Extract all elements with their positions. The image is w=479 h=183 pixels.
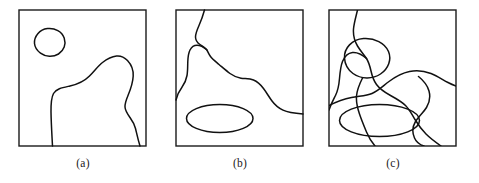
caption-panel-b: (b) [200, 157, 280, 169]
caption-panel-c: (c) [353, 157, 433, 169]
caption-panel-a: (a) [43, 157, 123, 169]
panel-c-frame [329, 10, 456, 146]
figure-container: (a) (b) (c) [0, 0, 479, 183]
panel-c [0, 0, 479, 183]
